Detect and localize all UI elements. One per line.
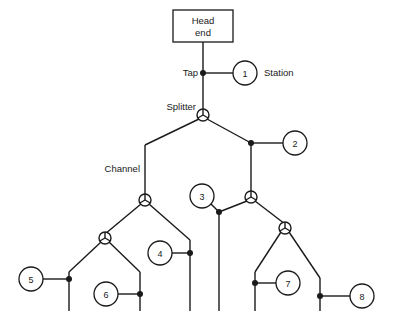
edge-left-split-to-lower	[105, 204, 141, 234]
station-node-5[interactable]: 5	[19, 267, 43, 291]
tap-station-1	[200, 70, 206, 76]
splitter-label: Splitter	[166, 101, 196, 112]
tap-station-2	[248, 140, 254, 146]
station-node-6[interactable]: 6	[94, 282, 118, 306]
edge-rightlower-to-tap8	[289, 232, 320, 278]
edge-splitter-left-diag	[145, 119, 199, 145]
head-end-label-line2: end	[195, 27, 211, 38]
station-number-4: 4	[157, 249, 162, 259]
station-node-4[interactable]: 4	[148, 241, 172, 265]
topology-canvas: Head end 12345678 TapStationSplitterChan…	[0, 0, 398, 329]
splitter-node-right	[245, 191, 257, 203]
station-node-1[interactable]: 1	[233, 61, 257, 85]
edge-labels: TapStationSplitterChannel	[105, 67, 294, 174]
tap-station-3	[216, 209, 222, 215]
station-number-2: 2	[292, 139, 297, 149]
edge-right-split-to-rightlower	[255, 201, 285, 224]
station-node-3[interactable]: 3	[190, 184, 214, 208]
tap-station-5	[66, 276, 72, 282]
station-node-2[interactable]: 2	[283, 131, 307, 155]
station-number-6: 6	[103, 290, 108, 300]
connection-lines	[43, 42, 350, 311]
edge-left-split-to-tap4	[149, 204, 190, 240]
head-end-label-line1: Head	[192, 15, 215, 26]
head-end-node: Head end	[173, 10, 233, 42]
station-number-5: 5	[28, 275, 33, 285]
splitter-node-right-lower	[279, 222, 291, 234]
station-node-7[interactable]: 7	[276, 271, 300, 295]
station-number-8: 8	[359, 292, 364, 302]
edge-right-split-to-tap3	[219, 201, 247, 212]
tap-station-8	[317, 293, 323, 299]
channel-label: Channel	[105, 163, 140, 174]
splitter-node-main	[197, 109, 209, 121]
splitter-node-left-lower	[99, 232, 111, 244]
edge-leftlower-to-tap6	[109, 242, 140, 272]
station-number-3: 3	[199, 192, 204, 202]
edge-rightlower-to-tap7	[255, 232, 281, 272]
splitter-node-left	[139, 194, 151, 206]
splitter-nodes	[99, 109, 291, 244]
station-nodes: 12345678	[19, 61, 374, 308]
station-label: Station	[264, 67, 294, 78]
tap-label: Tap	[183, 67, 198, 78]
edge-splitter-right-diag	[207, 119, 251, 143]
tap-station-4	[187, 250, 193, 256]
tap-station-6	[137, 291, 143, 297]
station-number-7: 7	[285, 279, 290, 289]
edge-leftlower-to-tap5	[69, 242, 101, 272]
station-node-8[interactable]: 8	[350, 284, 374, 308]
tap-station-7	[252, 280, 258, 286]
network-topology-diagram: Head end 12345678 TapStationSplitterChan…	[0, 0, 398, 329]
station-number-1: 1	[242, 69, 247, 79]
